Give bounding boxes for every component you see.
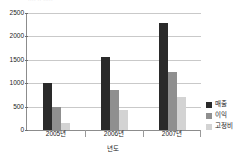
bar-group [101, 13, 128, 130]
bar [119, 110, 128, 130]
y-axis-tick-mark [25, 13, 28, 14]
bar [52, 107, 61, 130]
legend-item-label: 고정비 [215, 123, 233, 130]
x-axis-category-label: 2006년 [104, 131, 124, 138]
legend-item-label: 매출 [215, 101, 227, 108]
y-axis-tick-label: 2500 [10, 10, 24, 17]
y-axis-tick-label: 2000 [10, 33, 24, 40]
y-axis-tick-label: 0 [20, 127, 24, 134]
legend-item[interactable]: 이익 [206, 110, 245, 121]
x-axis-separator [143, 130, 144, 137]
y-axis-tick-label: 1500 [10, 57, 24, 64]
y-axis-tick-label: 500 [13, 103, 24, 110]
clipped-header-text: ···· ·· ····· [28, 0, 53, 3]
bar [168, 72, 177, 131]
legend-swatch-icon [206, 124, 212, 130]
bar [61, 123, 70, 130]
x-axis-category-label: 2007년 [162, 131, 182, 138]
y-axis-tick-mark [25, 36, 28, 37]
x-axis-separator [85, 130, 86, 137]
legend-item[interactable]: 매출 [206, 99, 245, 110]
bar-group [43, 13, 70, 130]
bar [43, 83, 52, 130]
legend-swatch-icon [206, 113, 212, 119]
plot-area: 050010001500200025002005년2006년2007년 [26, 13, 201, 131]
chart-legend: 매출이익고정비 [206, 99, 245, 132]
clipped-header-strip: ···· ·· ····· [0, 0, 245, 7]
bar [101, 57, 110, 130]
y-axis-tick-mark [25, 83, 28, 84]
y-axis-tick-mark [25, 107, 28, 108]
legend-item-label: 이익 [215, 112, 227, 119]
x-axis-separator [200, 130, 201, 137]
x-axis-title: 년도 [26, 146, 200, 153]
bar-group [159, 13, 186, 130]
y-axis-tick-label: 1000 [10, 80, 24, 87]
bar [159, 23, 168, 130]
y-axis-tick-mark [25, 130, 28, 131]
bar [177, 97, 186, 130]
bar [110, 90, 119, 130]
legend-item[interactable]: 고정비 [206, 121, 245, 132]
bar-chart: ···· ·· ····· 050010001500200025002005년2… [0, 0, 245, 158]
x-axis-category-label: 2005년 [46, 131, 66, 138]
y-axis-tick-mark [25, 60, 28, 61]
legend-swatch-icon [206, 102, 212, 108]
